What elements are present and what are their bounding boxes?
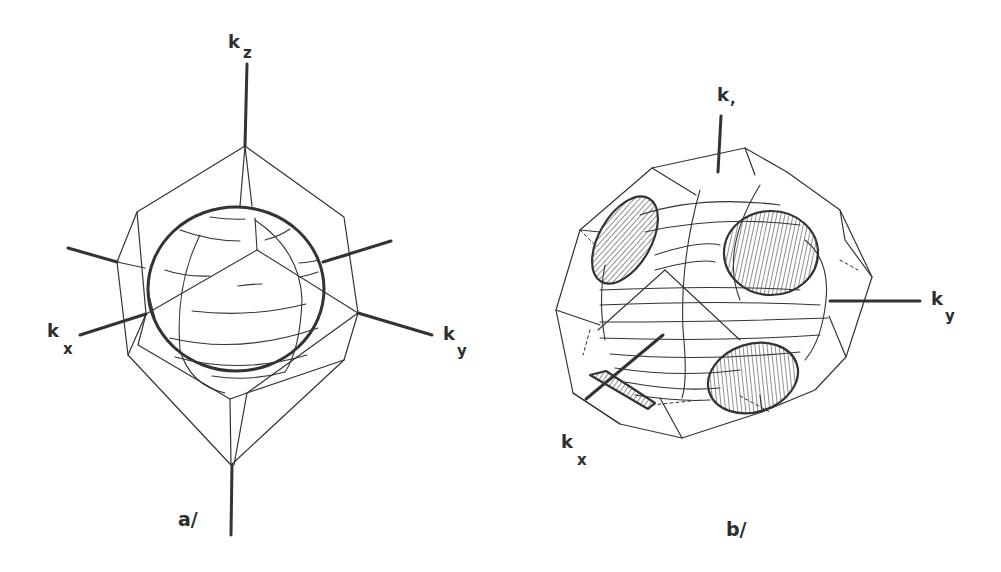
panel-a-kz-label: kz: [228, 33, 249, 51]
panel-a-kx-label: kx: [47, 322, 69, 340]
panel-b-ky-label: ky: [931, 290, 953, 308]
figure: kz kx ky a/ k, ky kx b/: [0, 0, 1001, 572]
panel-b-label: b/: [726, 520, 747, 539]
panel-b-kx-label: kx: [561, 433, 583, 451]
panel-a-label: a/: [178, 510, 198, 529]
panel-b-kz-label: k,: [717, 86, 735, 104]
panel-a-ky-label: ky: [443, 325, 465, 343]
panel-b-drawing: [0, 0, 1001, 572]
